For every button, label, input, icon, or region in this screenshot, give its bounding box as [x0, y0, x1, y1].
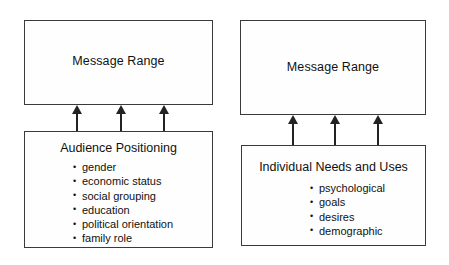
arrow-stem [163, 112, 165, 131]
audience-positioning-title: Audience Positioning [25, 141, 212, 155]
list-item: demographic [310, 224, 385, 238]
list-item: political orientation [73, 217, 173, 231]
list-item: economic status [73, 174, 173, 188]
arrow-up-left-1 [71, 105, 83, 131]
individual-needs-and-uses-list: psychological goals desires demographic [310, 181, 385, 238]
arrow-stem [292, 123, 294, 145]
diagram-canvas: Message Range Audience Positioning gende… [0, 0, 449, 265]
arrow-head-icon [159, 105, 169, 114]
arrow-up-right-1 [287, 115, 299, 145]
message-range-title-right: Message Range [241, 60, 425, 74]
arrow-head-icon [373, 115, 383, 124]
arrow-up-right-2 [329, 115, 341, 145]
arrow-up-left-2 [115, 105, 127, 131]
arrow-stem [334, 123, 336, 145]
arrow-up-right-3 [372, 115, 384, 145]
list-item: social grouping [73, 189, 173, 203]
message-range-box-left: Message Range [24, 20, 213, 105]
arrow-head-icon [330, 115, 340, 124]
message-range-title-left: Message Range [25, 54, 212, 68]
arrow-up-left-3 [158, 105, 170, 131]
arrow-head-icon [288, 115, 298, 124]
list-item: desires [310, 210, 385, 224]
arrow-head-icon [116, 105, 126, 114]
list-item: goals [310, 195, 385, 209]
list-item: gender [73, 160, 173, 174]
individual-needs-and-uses-box: Individual Needs and Uses psychological … [241, 145, 426, 246]
message-range-box-right: Message Range [240, 20, 426, 115]
arrow-stem [120, 112, 122, 131]
diagram-group-audience-positioning: Message Range Audience Positioning gende… [0, 0, 225, 265]
arrow-head-icon [72, 105, 82, 114]
arrow-stem [76, 112, 78, 131]
individual-needs-and-uses-title: Individual Needs and Uses [242, 160, 425, 174]
audience-positioning-box: Audience Positioning gender economic sta… [24, 131, 213, 248]
list-item: psychological [310, 181, 385, 195]
diagram-group-individual-needs-and-uses: Message Range Individual Needs and Uses … [225, 0, 449, 265]
arrow-stem [377, 123, 379, 145]
list-item: family role [73, 231, 173, 245]
list-item: education [73, 203, 173, 217]
audience-positioning-list: gender economic status social grouping e… [73, 160, 173, 246]
